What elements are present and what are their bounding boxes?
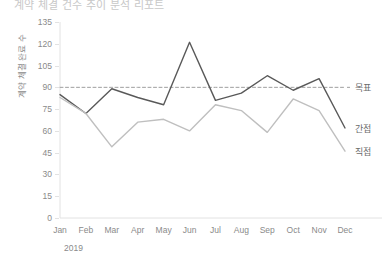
series-label-목표: 목표 (355, 81, 371, 94)
series-label-간접: 간접 (355, 121, 371, 134)
series-label-직접: 직접 (355, 145, 371, 158)
series-line-직접 (60, 97, 345, 151)
plot-area (0, 0, 392, 265)
series-line-간접 (60, 42, 345, 128)
chart-container: 계약 체결 건수 추이 분석 리포트 계약 체결 완료 수 0153045607… (0, 0, 392, 265)
